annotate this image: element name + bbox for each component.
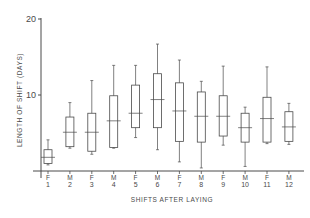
iqr-box: [219, 96, 227, 136]
iqr-box: [66, 117, 74, 147]
x-tick-shift-label: 11: [263, 181, 270, 188]
box-plot-item: [194, 81, 208, 168]
iqr-box: [154, 74, 162, 128]
box-plot-item: [63, 103, 77, 149]
box-plot-item: [85, 81, 99, 155]
x-tick-sex-label: M: [242, 174, 247, 181]
box-plot-item: [216, 66, 230, 145]
x-tick-sex-label: M: [111, 174, 116, 181]
x-tick-shift-label: 4: [112, 181, 116, 188]
box-plot-item: [282, 103, 296, 144]
boxes: [41, 44, 296, 168]
x-tick-shift-label: 10: [241, 181, 249, 188]
iqr-box: [110, 96, 118, 148]
x-tick-shift-label: 6: [156, 181, 160, 188]
x-tick-sex-label: F: [90, 174, 94, 181]
iqr-box: [132, 85, 140, 128]
x-tick-shift-label: 1: [46, 181, 50, 188]
x-tick-shift-label: 8: [199, 181, 203, 188]
box-plot-item: [41, 140, 55, 165]
x-tick-sex-label: M: [286, 174, 291, 181]
box-plot-item: [129, 65, 143, 137]
iqr-box: [175, 83, 183, 142]
x-tick-shift-label: 12: [285, 181, 293, 188]
x-axis-label: SHIFTS AFTER LAYING: [131, 196, 213, 203]
x-tick-sex-label: F: [177, 174, 181, 181]
x-tick-sex-label: F: [134, 174, 138, 181]
iqr-box: [44, 150, 52, 164]
box-plot-item: [107, 65, 121, 148]
x-tick-shift-label: 3: [90, 181, 94, 188]
x-tick-shift-label: 9: [221, 181, 225, 188]
box-plot-item: [151, 44, 165, 150]
box-plot-item: [260, 67, 274, 144]
x-tick-sex-label: M: [199, 174, 204, 181]
figure-caption-faded: [8, 209, 303, 213]
y-axis-label: LENGTH OF SHIFT (DAYS): [16, 53, 24, 147]
box-plot-item: [238, 107, 252, 166]
box-plot-item: [172, 60, 186, 162]
iqr-box: [285, 112, 293, 142]
x-tick-sex-label: M: [67, 174, 72, 181]
x-tick-sex-label: F: [221, 174, 225, 181]
x-tick-shift-label: 5: [134, 181, 138, 188]
x-tick-sex-label: F: [46, 174, 50, 181]
iqr-box: [263, 97, 271, 142]
y-tick-label-20: 20: [26, 14, 36, 24]
box-plot-chart: 20 10 LENGTH OF SHIFT (DAYS) SHIFTS AFTE…: [0, 0, 310, 218]
x-tick-sex-label: F: [265, 174, 269, 181]
x-tick-sex-label: M: [155, 174, 160, 181]
x-tick-labels: F1M2F3M4F5M6F7M8F9M10F11M12: [46, 171, 293, 188]
y-tick-label-10: 10: [26, 90, 36, 100]
x-tick-shift-label: 7: [177, 181, 181, 188]
x-tick-shift-label: 2: [68, 181, 72, 188]
iqr-box: [197, 92, 205, 142]
